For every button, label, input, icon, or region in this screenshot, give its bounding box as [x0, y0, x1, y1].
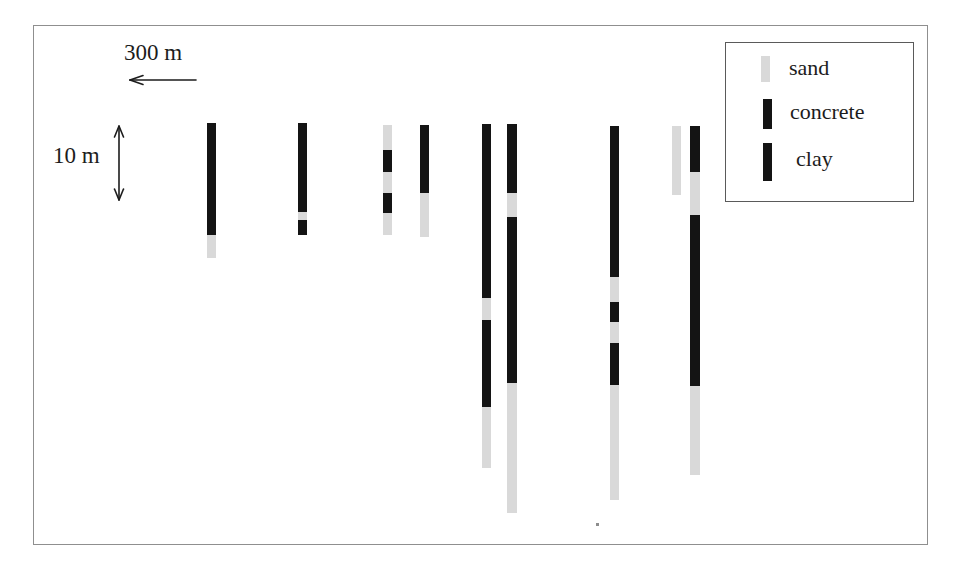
legend-box: sand concrete clay — [725, 42, 914, 202]
borehole-segment-dark — [420, 125, 429, 193]
borehole-segment-dark — [610, 126, 619, 277]
vertical-scale-label: 10 m — [53, 143, 100, 169]
borehole-segment-dark — [482, 320, 491, 407]
borehole-segment-dark — [610, 343, 619, 385]
borehole-segment-dark — [610, 302, 619, 322]
borehole-column-9 — [690, 126, 700, 475]
borehole-segment-dark — [690, 215, 700, 386]
legend-label-concrete: concrete — [790, 99, 865, 125]
borehole-cross-section-figure: 300 m 10 m sand concrete clay — [0, 0, 964, 572]
borehole-segment-dark — [507, 124, 517, 193]
borehole-segment-dark — [507, 217, 517, 383]
borehole-column-4 — [420, 125, 429, 237]
borehole-segment-sand — [690, 172, 700, 215]
borehole-segment-sand — [383, 213, 392, 235]
borehole-column-7 — [610, 126, 619, 500]
borehole-segment-sand — [507, 383, 517, 513]
borehole-segment-sand — [672, 126, 681, 195]
vertical-double-arrow-icon — [111, 122, 127, 204]
borehole-segment-sand — [690, 386, 700, 475]
borehole-segment-dark — [383, 193, 392, 213]
borehole-segment-sand — [207, 235, 216, 258]
borehole-segment-dark — [207, 123, 216, 235]
legend-label-sand: sand — [789, 55, 829, 81]
borehole-column-6 — [507, 124, 517, 513]
legend-swatch-sand — [761, 56, 770, 82]
left-arrow-icon — [126, 72, 200, 88]
borehole-column-8 — [672, 126, 681, 195]
legend-label-clay: clay — [796, 146, 833, 172]
borehole-column-2 — [298, 123, 307, 235]
borehole-segment-sand — [507, 193, 517, 217]
borehole-segment-sand — [610, 385, 619, 500]
borehole-segment-dark — [482, 124, 491, 298]
borehole-segment-sand — [383, 172, 392, 193]
legend-swatch-concrete — [763, 99, 772, 129]
borehole-segment-dark — [298, 220, 307, 235]
borehole-column-5 — [482, 124, 491, 468]
borehole-segment-sand — [420, 193, 429, 237]
borehole-column-3 — [383, 125, 392, 235]
horizontal-scale-label: 300 m — [124, 40, 182, 66]
borehole-segment-sand — [610, 322, 619, 343]
borehole-segment-sand — [298, 212, 307, 220]
legend-swatch-clay — [763, 143, 772, 181]
borehole-segment-sand — [383, 125, 392, 150]
borehole-segment-dark — [383, 150, 392, 172]
scan-artifact-speck — [596, 523, 599, 526]
borehole-segment-sand — [482, 298, 491, 320]
borehole-column-1 — [207, 123, 216, 258]
borehole-segment-dark — [298, 123, 307, 212]
borehole-segment-sand — [482, 407, 491, 468]
borehole-segment-sand — [610, 277, 619, 302]
borehole-segment-dark — [690, 126, 700, 172]
